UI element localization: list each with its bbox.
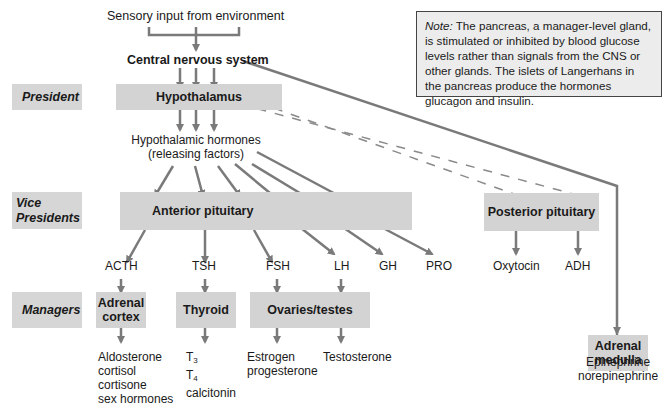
output-calcitonin: calcitonin (186, 386, 236, 400)
hypothalamic-hormones-label: Hypothalamic hormones (releasing factors… (129, 133, 263, 161)
hypothalamus-label: Hypothalamus (156, 90, 242, 104)
hypothalamic-hormones-line2: (releasing factors) (129, 147, 263, 161)
posterior-pituitary-box: Posterior pituitary (484, 193, 599, 231)
cns-label: Central nervous system (127, 53, 269, 67)
note-prefix: Note: (425, 19, 453, 32)
hormone-lh: LH (334, 259, 349, 273)
adrenal-cortex-outputs: Aldosterone cortisol cortisone sex hormo… (98, 350, 173, 406)
sensory-input-label: Sensory input from environment (107, 9, 284, 23)
hormone-fsh: FSH (266, 259, 290, 273)
hormone-gh: GH (379, 259, 397, 273)
anterior-pituitary-label: Anterior pituitary (152, 204, 253, 218)
rank-managers: Managers (12, 292, 82, 328)
pancreas-note: Note: The pancreas, a manager-level glan… (416, 11, 662, 97)
adrenal-cortex-label-2: cortex (102, 310, 140, 324)
output-testosterone: Testosterone (323, 350, 392, 364)
hypothalamic-hormones-line1: Hypothalamic hormones (129, 133, 263, 147)
adrenal-medulla-outputs: Epinephrine norepinephrine (578, 355, 658, 383)
ovaries-testes-label: Ovaries/testes (267, 303, 352, 317)
ovaries-outputs: Estrogen progesterone (247, 350, 318, 378)
output-epinephrine: Epinephrine (578, 355, 658, 369)
posterior-pituitary-label: Posterior pituitary (488, 205, 596, 219)
note-text: The pancreas, a manager-level gland, is … (425, 19, 651, 107)
output-cortisol: cortisol (98, 364, 173, 378)
output-sex-hormones: sex hormones (98, 392, 173, 406)
output-cortisone: cortisone (98, 378, 173, 392)
hormone-adh: ADH (565, 259, 590, 273)
hypothalamus-box: Hypothalamus (116, 84, 282, 110)
hormone-acth: ACTH (105, 259, 138, 273)
output-t4: T4 (186, 368, 236, 386)
output-norepinephrine: norepinephrine (578, 369, 658, 383)
rank-vice-presidents-text: Vice Presidents (16, 196, 76, 226)
adrenal-cortex-box: Adrenal cortex (96, 292, 146, 328)
hormone-pro: PRO (426, 259, 452, 273)
thyroid-box: Thyroid (176, 292, 236, 328)
hormone-oxytocin: Oxytocin (493, 259, 540, 273)
adrenal-cortex-label-1: Adrenal (98, 296, 145, 310)
output-estrogen: Estrogen (247, 350, 318, 364)
anterior-pituitary-box-extension (312, 192, 412, 230)
anterior-pituitary-box: Anterior pituitary (120, 192, 312, 230)
rank-president: President (12, 84, 82, 110)
thyroid-outputs: T3 T4 calcitonin (186, 350, 236, 400)
rank-president-label: President (22, 90, 79, 104)
adrenal-medulla-label-1: Adrenal (595, 339, 642, 353)
output-t3: T3 (186, 350, 236, 368)
thyroid-label: Thyroid (183, 303, 229, 317)
hormone-tsh: TSH (192, 259, 216, 273)
output-progesterone: progesterone (247, 364, 318, 378)
rank-managers-label: Managers (22, 303, 80, 317)
output-aldosterone: Aldosterone (98, 350, 173, 364)
ovaries-testes-box: Ovaries/testes (250, 292, 370, 328)
